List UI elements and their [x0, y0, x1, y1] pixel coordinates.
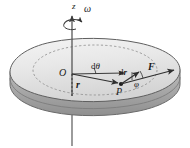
label-point-p: P [116, 87, 122, 97]
physics-diagram-figure: z ω O dθ r dr F φ P [0, 0, 190, 148]
label-force-vector: F [148, 62, 155, 72]
label-angular-velocity: ω [84, 4, 91, 14]
label-dtheta: dθ [91, 62, 100, 71]
diagram-canvas [0, 0, 190, 148]
label-dtheta-symbol: θ [96, 61, 100, 71]
label-radius-vector: r [76, 80, 80, 90]
label-z-axis: z [72, 2, 76, 11]
label-dr: dr [119, 68, 127, 77]
label-dr-symbol: r [124, 67, 128, 77]
omega-rotation-arrow [64, 20, 82, 30]
label-origin: O [59, 68, 66, 78]
label-phi-angle: φ [134, 80, 139, 89]
